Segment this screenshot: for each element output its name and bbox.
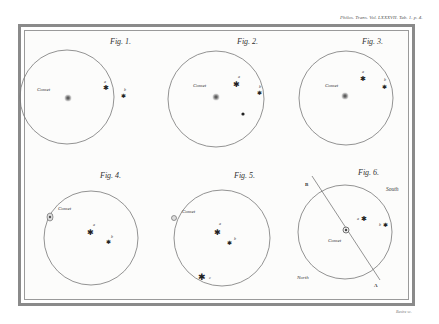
star-icon: ✱: [257, 90, 262, 96]
svg-text:B: B: [305, 182, 309, 187]
star-icon: ✱: [198, 272, 206, 282]
comet-label: Comet: [37, 87, 51, 92]
star-icon: ✱: [382, 84, 387, 90]
star-icon: ✱: [214, 228, 221, 237]
svg-text:a: a: [238, 74, 240, 79]
svg-text:a: a: [357, 216, 359, 221]
figure-label: Fig. 1.: [109, 37, 131, 46]
svg-text:b: b: [111, 234, 113, 239]
star-icon: ✱: [227, 240, 232, 246]
figure-label: Fig. 2.: [236, 37, 258, 46]
figure-4: Fig. 4. Comet a ✱ b ✱: [44, 171, 138, 285]
svg-text:b: b: [259, 84, 261, 89]
figure-label: Fig. 4.: [99, 171, 121, 180]
figure-1: Fig. 1. Comet a ✱ b ✱: [20, 37, 131, 144]
svg-text:A: A: [374, 283, 378, 288]
engraver-signature: Basire sc.: [396, 309, 412, 314]
comet-label: Comet: [328, 238, 342, 243]
figure-label: Fig. 6.: [357, 168, 379, 177]
star-icon: ✱: [87, 228, 94, 237]
star-icon: ✱: [360, 75, 366, 83]
star-icon: [241, 112, 244, 115]
svg-text:b: b: [234, 236, 236, 241]
figure-5: Fig. 5. Comet a ✱ b ✱ ✱ c: [172, 171, 271, 286]
star-icon: ✱: [106, 239, 111, 245]
svg-text:b: b: [384, 77, 386, 82]
comet-icon: [172, 216, 177, 221]
comet-label: Comet: [58, 206, 72, 211]
comet-icon: [342, 93, 349, 100]
svg-text:a: a: [219, 221, 221, 226]
figure-2: Fig. 2. Comet a ✱ b ✱: [168, 37, 264, 147]
comet-icon: [65, 95, 72, 102]
comet-plate-figures: Fig. 1. Comet a ✱ b ✱ Fig. 2. Comet a ✱ …: [0, 0, 439, 324]
comet-icon: [213, 94, 220, 101]
star-icon: ✱: [361, 215, 367, 223]
north-label: North: [296, 275, 309, 280]
svg-text:b: b: [379, 222, 381, 227]
star-icon: ✱: [383, 222, 388, 228]
star-icon: ✱: [233, 80, 240, 89]
comet-label: Comet: [325, 83, 339, 88]
star-icon: ✱: [121, 93, 126, 99]
south-label: South: [386, 186, 399, 192]
figure-3: Fig. 3. Comet a ✱ b ✱: [299, 37, 393, 145]
svg-text:a: a: [93, 222, 95, 227]
figure-label: Fig. 5.: [233, 171, 255, 180]
star-icon: ✱: [103, 84, 109, 92]
figure-6: Fig. 6. B A Comet a ✱ b ✱ South North: [296, 168, 399, 288]
comet-label: Comet: [182, 209, 196, 214]
svg-text:b: b: [124, 87, 126, 92]
figure-label: Fig. 3.: [361, 37, 383, 46]
svg-text:c: c: [209, 275, 211, 280]
svg-text:a: a: [362, 69, 364, 74]
telescope-field: [174, 190, 270, 286]
comet-label: Comet: [193, 83, 207, 88]
